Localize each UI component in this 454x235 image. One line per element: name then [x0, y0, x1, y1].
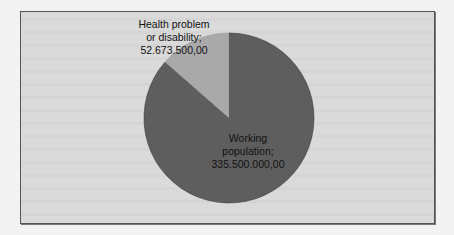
pie-slices	[144, 33, 314, 203]
data-label-health: Health problem or disability; 52.673.500…	[119, 18, 229, 57]
label-working-line1: Working	[193, 132, 303, 145]
chart-frame: Health problem or disability; 52.673.500…	[20, 11, 435, 224]
page: Health problem or disability; 52.673.500…	[0, 0, 454, 235]
data-label-working: Working population; 335.500.000,00	[193, 132, 303, 171]
label-health-line2: or disability;	[119, 31, 229, 44]
label-health-value: 52.673.500,00	[119, 44, 229, 57]
label-working-line2: population;	[193, 145, 303, 158]
label-health-line1: Health problem	[119, 18, 229, 31]
label-working-value: 335.500.000,00	[193, 158, 303, 171]
